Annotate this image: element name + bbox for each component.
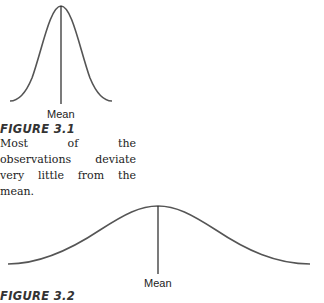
figure-caption-1: Most of the observations deviate very li… bbox=[0, 136, 136, 200]
mean-label-1: Mean bbox=[47, 108, 75, 120]
mean-label-2: Mean bbox=[144, 277, 172, 289]
narrow-normal-curve bbox=[10, 6, 112, 104]
figure-title-1: FIGURE 3.1 bbox=[0, 122, 75, 136]
figure-title-2: FIGURE 3.2 bbox=[0, 289, 75, 303]
wide-normal-curve bbox=[8, 206, 310, 274]
